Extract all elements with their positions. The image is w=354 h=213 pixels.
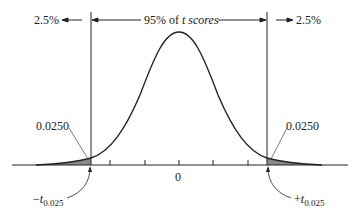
right-area-label: 0.0250 (286, 119, 319, 133)
left-crit-arrow (67, 168, 90, 198)
left-leader-line (69, 128, 88, 159)
left-critical-value: −t0.025 (33, 192, 64, 208)
zero-label: 0 (175, 170, 181, 184)
left-area-label: 0.0250 (36, 119, 69, 133)
right-critical-value: +t0.025 (294, 192, 325, 208)
right-crit-arrow (268, 168, 291, 198)
left-tail-percent: 2.5% (34, 13, 59, 27)
right-tail-percent: 2.5% (296, 13, 321, 27)
axis-ticks (110, 160, 248, 165)
t-distribution-diagram: 2.5% 2.5% 95% of t scores 0.0250 0.0250 … (0, 0, 354, 213)
density-curve (36, 32, 322, 165)
center-percent-label: 95% of t scores (144, 13, 219, 27)
right-leader-line (271, 128, 287, 159)
